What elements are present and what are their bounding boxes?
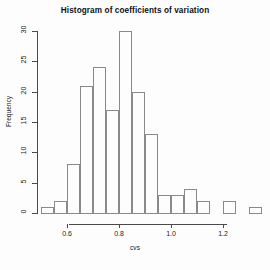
histogram-bar — [106, 110, 119, 214]
y-tick-label: 10 — [20, 143, 27, 159]
x-tick-label: 0.8 — [107, 230, 131, 237]
y-tick-mark — [32, 183, 37, 184]
histogram-bar — [145, 134, 158, 214]
y-tick-mark — [32, 122, 37, 123]
y-tick-label: 0 — [20, 204, 27, 220]
histogram-plot: Histogram of coefficients of variation 0… — [0, 0, 270, 270]
y-tick-mark — [32, 61, 37, 62]
x-tick-mark — [67, 224, 68, 228]
plot-area: 051015202530 0.60.81.01.2 Frequency cvs — [0, 0, 270, 270]
x-axis-title: cvs — [0, 244, 270, 251]
x-tick-mark — [119, 224, 120, 228]
y-tick-mark — [32, 31, 37, 32]
histogram-bar — [119, 31, 132, 214]
y-axis-line — [37, 31, 38, 214]
y-tick-label: 15 — [20, 113, 27, 129]
histogram-bar — [171, 195, 184, 214]
histogram-bar — [158, 195, 171, 214]
y-tick-mark — [32, 152, 37, 153]
histogram-bar — [67, 164, 80, 214]
x-tick-mark — [171, 224, 172, 228]
x-axis-line — [69, 224, 227, 225]
histogram-bar — [249, 207, 262, 214]
histogram-bar — [184, 189, 197, 214]
histogram-bar — [197, 201, 210, 214]
histogram-bar — [223, 201, 236, 214]
histogram-bar — [54, 201, 67, 214]
y-tick-label: 25 — [20, 52, 27, 68]
histogram-bar — [80, 86, 93, 214]
y-tick-mark — [32, 92, 37, 93]
y-tick-label: 30 — [20, 22, 27, 38]
x-tick-label: 1.2 — [211, 230, 235, 237]
y-tick-mark — [32, 213, 37, 214]
y-tick-label: 5 — [20, 173, 27, 189]
histogram-bar — [41, 207, 54, 214]
y-axis-title: Frequency — [5, 90, 12, 134]
y-tick-label: 20 — [20, 82, 27, 98]
histogram-bar — [132, 92, 145, 214]
x-tick-label: 1.0 — [159, 230, 183, 237]
x-tick-label: 0.6 — [55, 230, 79, 237]
x-tick-mark — [223, 224, 224, 228]
histogram-bar — [93, 67, 106, 214]
